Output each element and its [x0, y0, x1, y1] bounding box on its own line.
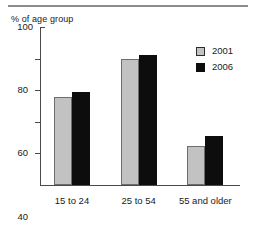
x-axis-line [40, 185, 240, 186]
x-axis-label-15-to-24: 15 to 24 [55, 195, 89, 206]
y-tick-100: 100 [40, 27, 45, 28]
legend-item-2001: 2001 [196, 43, 233, 59]
bar-2006-25-to-54 [139, 55, 157, 185]
y-tick-20: 20 [35, 153, 40, 154]
bar-2001-55-and-older [187, 146, 205, 186]
y-tick-label-80: 80 [17, 85, 28, 95]
bar-2006-55-and-older [205, 136, 223, 185]
bar-chart-figure: % of age group 020406080100 15 to 2425 t… [0, 0, 254, 228]
y-tick-40: 40 [35, 122, 40, 123]
legend: 2001 2006 [196, 43, 233, 75]
legend-swatch-2001-icon [196, 47, 205, 56]
y-tick-label-40: 40 [17, 212, 28, 222]
bar-2001-25-to-54 [121, 59, 139, 185]
legend-swatch-2006-icon [196, 63, 205, 72]
legend-label-2006: 2006 [212, 62, 233, 72]
top-divider-rule [8, 5, 248, 7]
y-tick-80: 80 [35, 59, 40, 60]
x-axis-label-55-and-older: 55 and older [179, 195, 232, 206]
legend-item-2006: 2006 [196, 59, 233, 75]
x-axis-label-25-to-54: 25 to 54 [121, 195, 155, 206]
bar-2001-15-to-24 [54, 97, 72, 185]
bar-2006-15-to-24 [72, 92, 90, 185]
y-axis-line [40, 27, 41, 186]
legend-label-2001: 2001 [212, 46, 233, 56]
y-tick-label-60: 60 [17, 148, 28, 158]
y-tick-label-100: 100 [17, 22, 33, 32]
y-tick-0: 0 [40, 185, 45, 186]
y-tick-60: 60 [35, 90, 40, 91]
